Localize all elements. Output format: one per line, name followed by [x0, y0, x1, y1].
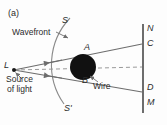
ray-upper-direction-arrow [44, 60, 62, 64]
point-label-s-prime: S' [64, 103, 72, 113]
point-label-s: S [62, 15, 68, 25]
wavefront-label: Wavefront [12, 28, 50, 38]
light-source-point [12, 68, 16, 72]
point-label-d: D [147, 82, 154, 92]
source-label-line2: of light [6, 85, 33, 95]
wire-label: Wire [93, 82, 110, 92]
panel-tag: (a) [8, 8, 19, 18]
diagram-canvas [0, 0, 167, 125]
point-label-c: C [147, 38, 154, 48]
point-label-n: N [147, 23, 154, 33]
point-label-a: A [84, 42, 90, 52]
point-label-l: L [4, 60, 9, 70]
point-label-m: M [147, 97, 155, 107]
diffraction-figure: (a) Wavefront S S' L Source of light A B… [0, 0, 167, 125]
source-of-light-label: Source of light [6, 75, 33, 94]
point-label-b: B [82, 75, 88, 85]
